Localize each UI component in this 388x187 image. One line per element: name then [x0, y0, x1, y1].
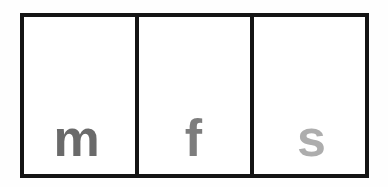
letter-cell-grid: m f s — [20, 13, 369, 178]
figure-canvas: m f s — [0, 0, 388, 187]
letter-cell-f: f — [135, 17, 250, 174]
letter-cell-m: m — [24, 17, 135, 174]
cell-letter-glyph: s — [254, 112, 365, 164]
letter-cell-s: s — [250, 17, 365, 174]
cell-letter-glyph: f — [139, 112, 250, 164]
cell-letter-glyph: m — [24, 112, 135, 164]
